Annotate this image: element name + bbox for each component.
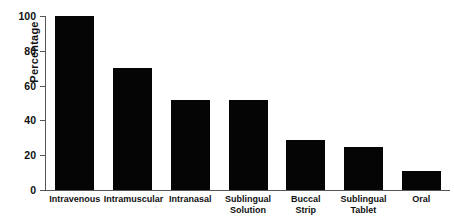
x-category-label: Buccal Strip bbox=[277, 194, 335, 215]
y-tick-mark bbox=[40, 86, 45, 87]
y-tick-mark bbox=[40, 155, 45, 156]
bar-chart: Percentage 020406080100 IntravenousIntra… bbox=[0, 0, 454, 224]
y-tick-label: 0 bbox=[4, 185, 36, 196]
y-tick-label: 80 bbox=[4, 46, 36, 57]
plot-area bbox=[46, 16, 450, 190]
y-tick-label: 20 bbox=[4, 150, 36, 161]
y-tick-label: 60 bbox=[4, 80, 36, 91]
bar bbox=[286, 140, 325, 190]
x-category-label: Sublingual Solution bbox=[219, 194, 277, 215]
x-axis-spine bbox=[45, 190, 450, 191]
y-tick-mark bbox=[40, 120, 45, 121]
x-category-label: Intranasal bbox=[161, 194, 219, 205]
y-tick-label: 40 bbox=[4, 115, 36, 126]
bar bbox=[55, 16, 94, 190]
y-tick-label: 100 bbox=[4, 11, 36, 22]
x-category-label: Intramuscular bbox=[104, 194, 162, 205]
x-category-label: Intravenous bbox=[46, 194, 104, 205]
bar bbox=[402, 171, 441, 190]
x-category-label: Sublingual Tablet bbox=[335, 194, 393, 215]
bar bbox=[171, 100, 210, 190]
bar bbox=[113, 68, 152, 190]
x-category-label: Oral bbox=[392, 194, 450, 205]
bar bbox=[344, 147, 383, 190]
y-tick-mark bbox=[40, 16, 45, 17]
y-tick-mark bbox=[40, 190, 45, 191]
bar bbox=[229, 100, 268, 190]
y-tick-mark bbox=[40, 51, 45, 52]
